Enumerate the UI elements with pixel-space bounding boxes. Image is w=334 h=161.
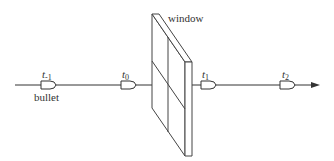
bullet-label: bullet — [34, 91, 59, 103]
bullet-icon-t-1 — [41, 81, 56, 89]
bullet-icon-t2 — [280, 81, 295, 89]
arrow-head-icon — [311, 82, 320, 88]
time-label-t2: t2 — [282, 68, 289, 82]
bullet-icon-t0 — [121, 81, 136, 89]
window-label: window — [168, 12, 204, 24]
window-side-edge — [185, 62, 192, 156]
time-label-t1: t1 — [202, 68, 209, 82]
time-label-t-1: t-1 — [42, 68, 52, 82]
time-label-t0: t0 — [122, 68, 129, 82]
window — [152, 14, 192, 156]
bullet-window-diagram: t-1 t0 t1 t2 bullet window — [0, 0, 334, 161]
bullet-icon-t1 — [201, 81, 216, 89]
